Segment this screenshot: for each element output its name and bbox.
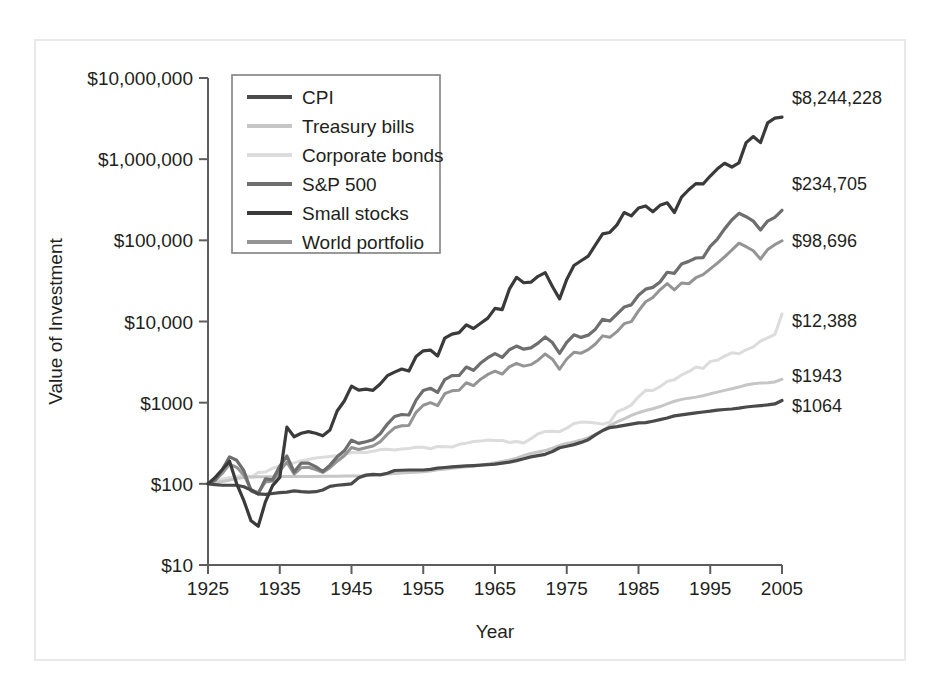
x-tick-label: 1945 <box>330 578 372 599</box>
series-line-cpi <box>208 400 782 494</box>
y-tick-label: $10 <box>161 555 193 576</box>
x-tick-label: 1965 <box>474 578 516 599</box>
end-value-label-world-portfolio: $98,696 <box>792 231 857 251</box>
figure-root: $10$100$1000$10,000$100,000$1,000,000$10… <box>0 0 939 700</box>
legend-label-corporate-bonds: Corporate bonds <box>302 145 444 166</box>
y-axis-title: Value of Investment <box>45 238 66 405</box>
end-value-label-cpi: $1064 <box>792 396 842 416</box>
end-labels-group: $8,244,228$234,705$98,696$12,388$1943$10… <box>792 88 882 416</box>
legend-label-small-stocks: Small stocks <box>302 203 409 224</box>
series-line-corporate-bonds <box>208 314 782 484</box>
y-tick-label: $1,000,000 <box>98 149 193 170</box>
y-tick-label: $10,000,000 <box>87 68 193 89</box>
x-tick-label: 1995 <box>689 578 731 599</box>
x-tick-label: 1935 <box>259 578 301 599</box>
investment-growth-line-chart: $10$100$1000$10,000$100,000$1,000,000$10… <box>0 0 939 700</box>
end-value-label-small-stocks: $8,244,228 <box>792 88 882 108</box>
x-tick-label: 1955 <box>402 578 444 599</box>
y-tick-label: $100 <box>151 474 193 495</box>
legend: CPITreasury billsCorporate bondsS&P 500S… <box>232 75 444 253</box>
x-tick-label: 1925 <box>187 578 229 599</box>
y-tick-label: $100,000 <box>114 230 193 251</box>
x-axis-title: Year <box>476 621 515 642</box>
legend-label-world-portfolio: World portfolio <box>302 232 424 253</box>
y-tick-label: $1000 <box>140 393 193 414</box>
legend-label-cpi: CPI <box>302 87 334 108</box>
end-value-label-treasury-bills: $1943 <box>792 366 842 386</box>
x-tick-label: 1985 <box>617 578 659 599</box>
x-tick-label: 2005 <box>761 578 803 599</box>
end-value-label-s-p-500: $234,705 <box>792 174 867 194</box>
end-value-label-corporate-bonds: $12,388 <box>792 311 857 331</box>
x-tick-label: 1975 <box>546 578 588 599</box>
y-tick-label: $10,000 <box>124 312 193 333</box>
legend-label-treasury-bills: Treasury bills <box>302 116 414 137</box>
legend-label-s-p-500: S&P 500 <box>302 174 377 195</box>
